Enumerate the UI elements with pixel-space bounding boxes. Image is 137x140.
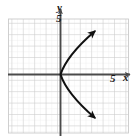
graph-screenshot: y x 5 5 [0,0,137,140]
x-axis-label: x [123,72,129,83]
x-axis-tick-label-5: 5 [110,73,116,84]
coordinate-plane [0,0,137,140]
y-axis-tick-label-5: 5 [56,13,62,24]
